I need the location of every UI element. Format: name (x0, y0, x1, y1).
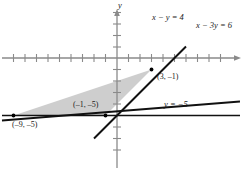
point-label-neg1-neg5: (–1, –5) (73, 100, 98, 109)
y-axis-label: y (118, 0, 122, 10)
x-axis-arrowhead (234, 55, 241, 61)
line-label-y-equals-minus-5: y = −5 (164, 99, 188, 109)
point-dot-3-neg1 (150, 68, 154, 72)
graph-figure: y x − y = 4 x − 3y = 6 y = −5 (3, –1) (–… (0, 0, 242, 171)
line-label-x-minus-3y-6: x − 3y = 6 (196, 20, 232, 30)
point-dot-neg1-neg5 (104, 114, 108, 118)
line-label-x-minus-y-4: x − y = 4 (152, 12, 184, 22)
point-label-3-neg1: (3, –1) (157, 72, 178, 81)
point-label-neg9-neg5: (–9, –5) (12, 120, 37, 129)
point-dot-neg9-neg5 (12, 114, 16, 118)
